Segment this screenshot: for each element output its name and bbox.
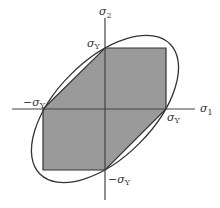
label-top-sigma-y: σY [87,37,101,51]
yield-criteria-diagram: σ2 σ1 σY σY −σY −σY [0,0,220,208]
sigma2-axis-label: σ2 [99,5,112,20]
label-right-sigma-y: σY [167,111,181,125]
label-bottom-neg-sigma-y: −σY [108,173,131,187]
sigma1-axis-label: σ1 [200,102,213,117]
label-left-neg-sigma-y: −σY [23,96,46,110]
